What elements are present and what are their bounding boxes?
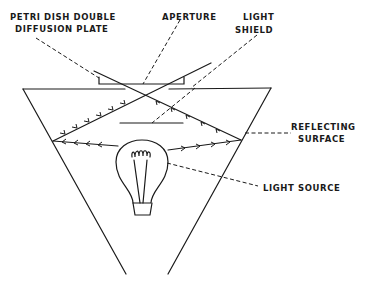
leader-petri-dish <box>36 38 99 78</box>
label-light-source: LIGHT SOURCE <box>263 183 340 193</box>
label-reflecting-line2: SURFACE <box>298 134 345 144</box>
label-aperture: APERTURE <box>162 12 217 22</box>
aperture-crossing-rays <box>53 63 241 141</box>
ray-bulb-to-right-reflector <box>168 140 241 151</box>
label-light-shield-line2: SHIELD <box>235 25 273 35</box>
leader-light-source <box>167 163 258 186</box>
leader-light-shield-lower <box>152 88 195 123</box>
ray-bulb-to-left-reflector <box>53 139 118 147</box>
light-bulb-icon <box>116 140 168 215</box>
leader-light-shield <box>191 35 257 88</box>
ray-left-reflector-to-aperture <box>60 100 125 134</box>
label-petri-dish-line2: DIFFUSION PLATE <box>15 24 109 34</box>
ray-right-reflector-to-aperture <box>156 101 220 133</box>
label-reflecting-line1: REFLECTING <box>291 122 356 132</box>
leader-aperture <box>143 20 180 84</box>
label-petri-dish-line1: PETRI DISH DOUBLE <box>10 12 116 22</box>
reflecting-cone <box>23 88 271 274</box>
label-light-shield-line1: LIGHT <box>243 12 274 22</box>
